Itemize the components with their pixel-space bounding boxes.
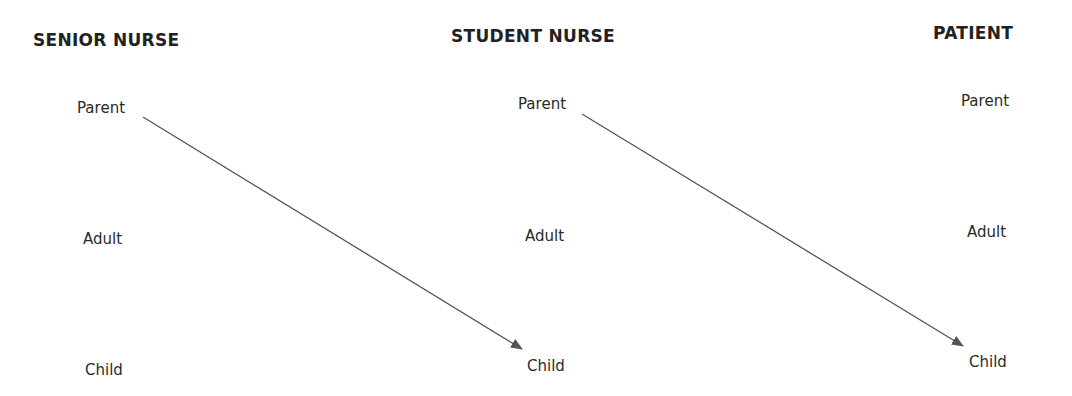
student-child-label: Child	[527, 357, 565, 375]
transaction-arrows	[0, 0, 1072, 396]
arrow-senior-parent-to-student-child	[143, 117, 522, 349]
senior-parent-label: Parent	[77, 99, 125, 117]
student-nurse-header: STUDENT NURSE	[451, 26, 615, 46]
patient-child-label: Child	[969, 353, 1007, 371]
student-parent-label: Parent	[518, 95, 566, 113]
senior-child-label: Child	[85, 361, 123, 379]
student-adult-label: Adult	[525, 227, 564, 245]
senior-nurse-header: SENIOR NURSE	[33, 30, 179, 50]
arrow-student-parent-to-patient-child	[582, 114, 963, 346]
senior-adult-label: Adult	[83, 230, 122, 248]
patient-header: PATIENT	[933, 23, 1013, 43]
patient-adult-label: Adult	[967, 223, 1006, 241]
patient-parent-label: Parent	[961, 92, 1009, 110]
